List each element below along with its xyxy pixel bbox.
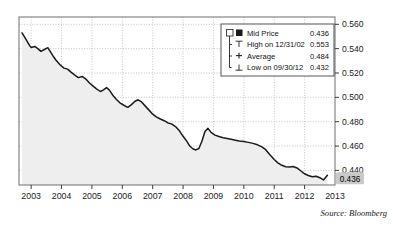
- legend-label: Low on 09/30/12: [247, 63, 303, 72]
- y-tick-label: 0.460: [342, 141, 364, 151]
- x-tick-label: 2008: [173, 191, 193, 201]
- y-tick-label: 0.500: [342, 92, 364, 102]
- legend-label: Mid Price: [247, 29, 279, 38]
- legend-row-high[interactable]: High on 12/31/02 0.553: [236, 40, 330, 49]
- x-tick-label: 2005: [82, 191, 102, 201]
- source-attribution: Source: Bloomberg: [321, 208, 388, 218]
- x-tick-label: 2013: [325, 191, 345, 201]
- chart-container: 0.5600.5400.5200.5000.4800.4600.440 2003…: [0, 0, 393, 238]
- legend-label: Average: [247, 52, 275, 61]
- y-tick-label: 0.520: [342, 68, 364, 78]
- legend-value: 0.436: [310, 29, 329, 38]
- y-tick-label: 0.540: [342, 44, 364, 54]
- checkbox-icon[interactable]: [227, 30, 234, 37]
- y-tick-label: 0.480: [342, 117, 364, 127]
- x-tick-label: 2006: [113, 191, 133, 201]
- legend-label: High on 12/31/02: [247, 40, 305, 49]
- badge-value: 0.436: [340, 175, 361, 184]
- x-tick-label: 2011: [265, 191, 284, 201]
- line-chart: 0.5600.5400.5200.5000.4800.4600.440 2003…: [0, 0, 393, 238]
- x-tick-label: 2004: [52, 191, 72, 201]
- filled-square-icon: [236, 30, 243, 37]
- legend-value: 0.484: [310, 52, 329, 61]
- x-tick-label: 2007: [143, 191, 163, 201]
- legend-row-low[interactable]: Low on 09/30/12 0.432: [236, 63, 330, 72]
- legend-value: 0.553: [310, 40, 329, 49]
- x-tick-label: 2009: [204, 191, 224, 201]
- y-tick-label: 0.560: [342, 19, 364, 29]
- legend-value: 0.432: [310, 63, 329, 72]
- x-tick-label: 2010: [234, 191, 254, 201]
- chart-legend[interactable]: Mid Price 0.436 High on 12/31/02 0.553 A…: [221, 24, 334, 76]
- current-value-badge: 0.436: [336, 172, 364, 184]
- x-tick-label: 2003: [21, 191, 41, 201]
- x-tick-label: 2012: [295, 191, 315, 201]
